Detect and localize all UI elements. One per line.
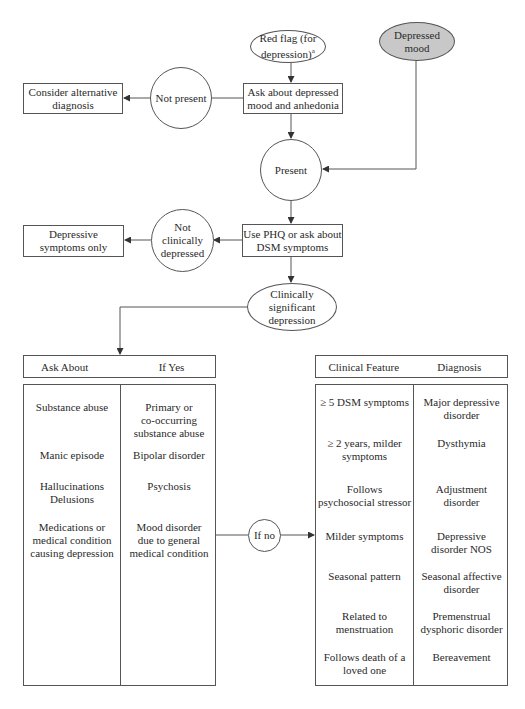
header-diagnosis: Diagnosis: [412, 356, 508, 377]
table-cell: Hallucinations Delusions: [24, 480, 120, 506]
clinically-significant-label: Clinically significant depression: [268, 288, 315, 327]
table-cell: Mood disorder due to general medical con…: [121, 521, 217, 560]
red-flag-label: Red flag (for depression): [260, 32, 317, 60]
right-table-header: Clinical Feature Diagnosis: [315, 355, 508, 378]
ask-about-column: Substance abuse Manic episode Hallucinat…: [24, 385, 120, 685]
if-no-node: If no: [248, 519, 281, 552]
if-yes-column: Primary or co-occurring substance abuse …: [121, 385, 217, 685]
red-flag-node: Red flag (for depression)a: [250, 30, 326, 63]
not-present-label: Not present: [155, 92, 206, 105]
use-phq-box: Use PHQ or ask about DSM symptoms: [242, 224, 343, 257]
table-cell: Major depressive disorder: [414, 396, 509, 422]
table-cell: ≥ 5 DSM symptoms: [316, 396, 413, 409]
table-cell: Seasonal affective disorder: [414, 570, 509, 596]
consider-alternative-box: Consider alternative diagnosis: [23, 83, 123, 114]
depressed-mood-node: Depressed mood: [379, 22, 455, 61]
diagnosis-column: Major depressive disorder Dysthymia Adju…: [414, 385, 509, 685]
table-cell: Milder symptoms: [316, 530, 413, 543]
header-clinical-feature: Clinical Feature: [316, 356, 412, 377]
not-present-node: Not present: [150, 67, 212, 129]
ask-mood-label: Ask about depressed mood and anhedonia: [247, 86, 339, 112]
depressed-mood-label: Depressed mood: [394, 29, 440, 55]
if-no-label: If no: [254, 529, 275, 542]
ask-mood-box: Ask about depressed mood and anhedonia: [243, 83, 343, 114]
table-cell: Related to menstruation: [316, 610, 413, 636]
left-table-header: Ask About If Yes: [23, 355, 216, 378]
table-cell: Premenstrual dysphoric disorder: [414, 610, 509, 636]
table-cell: Follows death of a loved one: [316, 651, 413, 677]
table-cell: Primary or co-occurring substance abuse: [121, 401, 217, 440]
clinical-feature-column: ≥ 5 DSM symptoms ≥ 2 years, milder sympt…: [316, 385, 413, 685]
table-cell: Bipolar disorder: [121, 449, 217, 462]
present-node: Present: [260, 139, 322, 201]
table-cell: Depressive disorder NOS: [414, 530, 509, 556]
not-clinically-depressed-label: Not clinically depressed: [161, 221, 204, 260]
table-cell: Medications or medical condition causing…: [24, 521, 120, 560]
consider-alternative-label: Consider alternative diagnosis: [29, 86, 118, 112]
table-cell: Manic episode: [24, 449, 120, 462]
right-table-body: ≥ 5 DSM symptoms ≥ 2 years, milder sympt…: [315, 384, 508, 686]
depressive-symptoms-only-label: Depressive symptoms only: [40, 228, 108, 254]
use-phq-label: Use PHQ or ask about DSM symptoms: [243, 228, 341, 254]
depressive-symptoms-only-box: Depressive symptoms only: [23, 225, 124, 257]
header-if-yes: If Yes: [128, 356, 215, 377]
header-ask-about: Ask About: [24, 356, 128, 377]
depression-diagnosis-flowchart: Red flag (for depression)a Depressed moo…: [0, 0, 525, 709]
table-cell: Bereavement: [414, 651, 509, 664]
clinically-significant-node: Clinically significant depression: [247, 283, 337, 331]
table-cell: ≥ 2 years, milder symptoms: [316, 437, 413, 463]
footnote-marker: a: [312, 47, 315, 55]
not-clinically-depressed-node: Not clinically depressed: [151, 209, 214, 272]
table-cell: Follows psychosocial stressor: [316, 483, 413, 509]
table-cell: Dysthymia: [414, 437, 509, 450]
table-cell: Adjustment disorder: [414, 483, 509, 509]
table-cell: Seasonal pattern: [316, 570, 413, 583]
table-cell: Psychosis: [121, 480, 217, 493]
present-label: Present: [275, 164, 307, 177]
left-table-body: Substance abuse Manic episode Hallucinat…: [23, 384, 216, 686]
table-cell: Substance abuse: [24, 401, 120, 414]
